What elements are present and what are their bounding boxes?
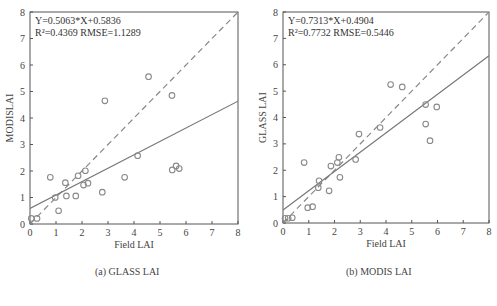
x-tick-label: 6 xyxy=(184,227,189,238)
y-tick-label: 8 xyxy=(273,7,278,18)
figure-canvas: 012345678012345678Y=0.5063*X+0.5836R²=0.… xyxy=(0,0,497,306)
regression-stats: R²=0.4369 RMSE=1.1289 xyxy=(35,27,141,38)
y-axis-label: MODISLAI xyxy=(4,94,15,143)
regression-stats: R²=0.7732 RMSE=0.5446 xyxy=(288,27,394,38)
y-tick-label: 1 xyxy=(20,192,25,203)
y-tick-label: 6 xyxy=(273,59,278,70)
regression-line xyxy=(30,101,238,208)
x-tick-label: 4 xyxy=(132,227,137,238)
y-tick-label: 2 xyxy=(273,165,278,176)
x-tick-label: 7 xyxy=(210,227,215,238)
panel-caption: (a) GLASS LAI xyxy=(95,266,159,278)
data-point xyxy=(423,121,429,127)
data-point xyxy=(377,125,383,131)
data-point xyxy=(122,175,128,181)
data-point xyxy=(399,84,405,90)
data-point xyxy=(336,155,342,161)
data-point xyxy=(315,185,321,191)
chart-panel-b: 012345678012345678Y=0.7313*X+0.4904R²=0.… xyxy=(257,7,492,279)
x-tick-label: 7 xyxy=(461,226,466,237)
data-point xyxy=(135,153,141,159)
x-tick-label: 0 xyxy=(281,226,286,237)
regression-equation: Y=0.5063*X+0.5836 xyxy=(35,15,121,26)
panel-caption: (b) MODIS LAI xyxy=(346,266,412,278)
x-tick-label: 1 xyxy=(54,227,59,238)
y-tick-label: 0 xyxy=(273,218,278,229)
x-tick-label: 2 xyxy=(332,226,337,237)
data-point xyxy=(353,157,359,163)
data-point xyxy=(146,74,152,80)
data-point xyxy=(64,193,70,199)
data-point xyxy=(99,189,105,195)
one-to-one-line xyxy=(283,12,489,223)
regression-equation: Y=0.7313*X+0.4904 xyxy=(288,15,374,26)
x-tick-label: 4 xyxy=(384,226,389,237)
y-tick-label: 0 xyxy=(20,219,25,230)
data-point xyxy=(47,175,53,181)
data-point xyxy=(427,138,433,144)
y-tick-label: 3 xyxy=(273,138,278,149)
x-tick-label: 3 xyxy=(106,227,111,238)
data-point xyxy=(56,208,62,214)
x-tick-label: 5 xyxy=(158,227,163,238)
data-point xyxy=(29,216,35,222)
x-tick-label: 6 xyxy=(435,226,440,237)
x-tick-label: 2 xyxy=(80,227,85,238)
data-point xyxy=(63,180,69,186)
y-axis-label: GLASS LAI xyxy=(257,92,268,143)
chart-panel-a: 012345678012345678Y=0.5063*X+0.5836R²=0.… xyxy=(4,7,241,279)
x-axis-label: Field LAI xyxy=(366,238,406,249)
x-tick-label: 8 xyxy=(487,226,492,237)
data-point xyxy=(169,93,175,99)
x-tick-label: 3 xyxy=(358,226,363,237)
y-tick-label: 4 xyxy=(273,112,278,123)
data-point xyxy=(73,193,79,199)
data-point xyxy=(83,168,89,174)
data-point xyxy=(388,82,394,88)
y-tick-label: 7 xyxy=(20,33,25,44)
x-tick-label: 8 xyxy=(236,227,241,238)
x-tick-label: 1 xyxy=(306,226,311,237)
y-tick-label: 7 xyxy=(273,33,278,44)
data-point xyxy=(301,160,307,166)
data-point xyxy=(102,98,108,104)
y-tick-label: 8 xyxy=(20,7,25,18)
y-tick-label: 1 xyxy=(273,191,278,202)
data-point xyxy=(75,173,81,179)
x-tick-label: 0 xyxy=(28,227,33,238)
y-tick-label: 2 xyxy=(20,166,25,177)
data-point xyxy=(289,215,295,221)
data-point xyxy=(328,163,334,169)
y-tick-label: 4 xyxy=(20,113,25,124)
y-tick-label: 6 xyxy=(20,60,25,71)
data-point xyxy=(434,104,440,110)
x-tick-label: 5 xyxy=(409,226,414,237)
y-tick-label: 3 xyxy=(20,139,25,150)
regression-line xyxy=(283,56,489,210)
y-tick-label: 5 xyxy=(273,86,278,97)
x-axis-label: Field LAI xyxy=(114,239,154,250)
data-point xyxy=(337,175,343,181)
y-tick-label: 5 xyxy=(20,86,25,97)
data-point xyxy=(326,188,332,194)
data-point xyxy=(356,131,362,137)
